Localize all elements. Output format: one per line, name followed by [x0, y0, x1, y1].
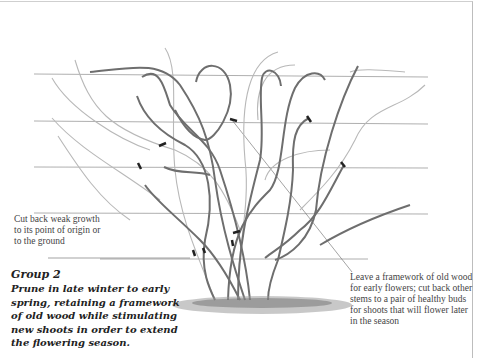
- old-wood-stems: [90, 66, 410, 300]
- group-caption: Group 2 Prune in late winter to early sp…: [11, 268, 186, 350]
- leader-lines: [48, 120, 352, 272]
- annotation-right: Leave a framework of old wood for early …: [350, 272, 475, 327]
- new-growth-stems: [52, 48, 425, 300]
- cut-marks: [138, 116, 345, 256]
- annotation-left: Cut back weak growth to its point of ori…: [14, 214, 104, 247]
- group-title: Group 2: [11, 268, 186, 282]
- group-description: Prune in late winter to early spring, re…: [11, 282, 186, 350]
